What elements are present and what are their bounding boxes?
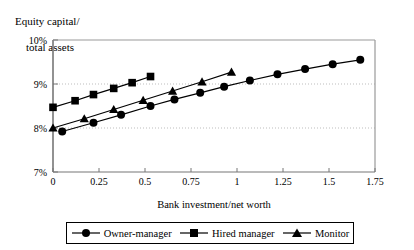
legend-label-owner-manager: Owner-manager — [104, 228, 172, 239]
legend-item-monitor[interactable]: Monitor — [282, 227, 349, 239]
legend-item-owner-manager[interactable]: Owner-manager — [71, 227, 172, 239]
legend: Owner-manager Hired manager Monitor — [66, 222, 354, 244]
plot-area: 00.250.50.7511.251.51.75 7%8%9%10% Bank … — [0, 0, 414, 250]
svg-text:10%: 10% — [29, 35, 47, 46]
circle-marker-icon — [71, 227, 101, 239]
svg-text:0.75: 0.75 — [182, 176, 200, 187]
x-axis-ticks: 00.250.50.7511.251.51.75 — [51, 168, 384, 187]
svg-text:7%: 7% — [34, 167, 47, 178]
series-owner-manager — [58, 56, 364, 136]
triangle-marker-icon — [282, 227, 312, 239]
svg-text:0.5: 0.5 — [139, 176, 152, 187]
chart-figure: Equity capital/ total assets 00.250.50.7… — [0, 0, 414, 250]
data-series-group — [48, 56, 364, 136]
svg-text:8%: 8% — [34, 123, 47, 134]
svg-text:1.5: 1.5 — [323, 176, 336, 187]
square-marker-icon — [179, 227, 209, 239]
svg-text:9%: 9% — [34, 79, 47, 90]
legend-item-hired-manager[interactable]: Hired manager — [179, 227, 275, 239]
svg-text:1.25: 1.25 — [274, 176, 292, 187]
svg-text:0.25: 0.25 — [90, 176, 108, 187]
gridlines — [53, 84, 375, 128]
svg-text:1: 1 — [235, 176, 240, 187]
svg-text:1.75: 1.75 — [366, 176, 384, 187]
legend-label-hired-manager: Hired manager — [212, 228, 275, 239]
x-axis-title: Bank investment/net worth — [157, 199, 271, 210]
legend-label-monitor: Monitor — [315, 228, 349, 239]
plot-frame — [53, 40, 375, 172]
svg-text:0: 0 — [51, 176, 56, 187]
series-hired-manager — [49, 73, 154, 111]
